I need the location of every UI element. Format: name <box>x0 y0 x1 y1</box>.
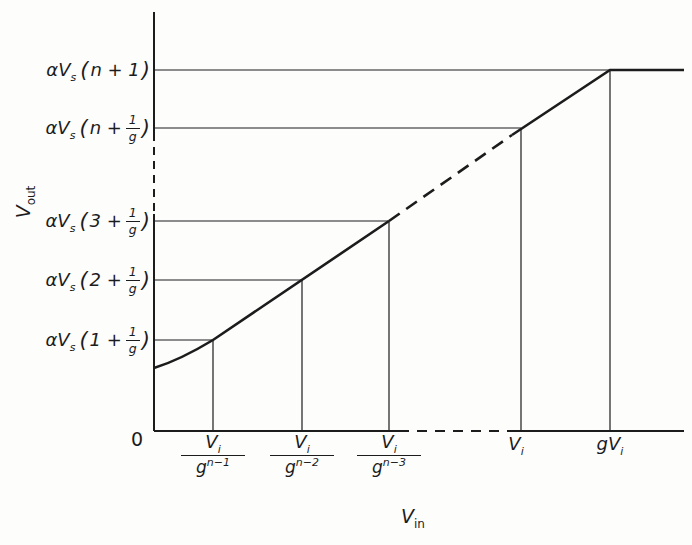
var-v-sub: i <box>394 443 397 456</box>
y-axis-title: Vout <box>14 178 38 226</box>
var-v: V <box>205 431 217 452</box>
var-v: V <box>57 210 69 231</box>
var-v: V <box>57 329 69 350</box>
alpha-symbol: α <box>45 329 57 350</box>
y-axis-title-var: V <box>12 205 34 218</box>
x-tick-label-vi-over-gn3: Vi gn−3 <box>357 433 421 476</box>
term-text: 1 + <box>90 331 122 349</box>
close-paren: ) <box>142 330 150 351</box>
curve-solid-lower <box>154 221 389 368</box>
fraction-denominator: g <box>126 281 140 295</box>
x-tick-label-vi-over-gn1: Vi gn−1 <box>181 433 245 476</box>
var-v: V <box>58 59 70 80</box>
var-v: V <box>608 433 620 454</box>
transfer-characteristic-figure: Vout αVs(n + 1) αVs(n +1g) αVs(3 +1g) αV… <box>0 0 692 545</box>
var-g: g <box>196 457 207 477</box>
fraction-numerator: Vi <box>357 433 421 456</box>
open-paren: ( <box>79 270 87 291</box>
var-v-sub: s <box>70 129 76 142</box>
var-g: g <box>372 457 383 477</box>
var-v: V <box>508 433 520 454</box>
open-paren: ( <box>79 118 87 139</box>
close-paren: ) <box>142 118 150 139</box>
fraction-denominator: g <box>126 129 140 143</box>
var-v-sub: s <box>70 222 76 235</box>
fraction-numerator: 1 <box>126 265 140 280</box>
alpha-symbol: α <box>45 117 57 138</box>
y-axis-title-sub: out <box>24 186 38 206</box>
var-g: g <box>597 433 608 454</box>
fraction-1-over-g: 1g <box>126 206 140 235</box>
fraction-denominator: g <box>126 341 140 355</box>
y-tick-coefficient: αVs <box>45 331 75 349</box>
var-g-exponent: n−3 <box>383 456 406 469</box>
fraction-numerator: 1 <box>126 325 140 340</box>
term-text: 3 + <box>90 212 122 230</box>
fraction-denominator: gn−3 <box>357 456 421 476</box>
var-v-sub: i <box>307 443 310 456</box>
x-tick-label-vi: Vi <box>496 435 536 453</box>
fraction-1-over-g: 1g <box>126 113 140 142</box>
close-paren: ) <box>142 211 150 232</box>
fraction-numerator: 1 <box>126 113 140 128</box>
var-v-sub: i <box>620 445 623 458</box>
open-paren: ( <box>80 60 88 81</box>
var-g-exponent: n−1 <box>207 456 230 469</box>
var-v-sub: s <box>70 281 76 294</box>
curve-dashed-break <box>389 135 512 221</box>
close-paren: ) <box>142 270 150 291</box>
fraction-denominator: gn−1 <box>181 456 245 476</box>
term-text: 2 + <box>90 271 122 289</box>
var-g: g <box>285 457 296 477</box>
fraction-denominator: g <box>126 222 140 236</box>
fraction-1-over-g: 1g <box>126 265 140 294</box>
open-paren: ( <box>79 211 87 232</box>
y-tick-label-2-plus-1g: αVs(2 +1g) <box>45 260 150 300</box>
curve-solid-upper-and-plateau <box>512 70 684 135</box>
y-tick-label-n-plus-1: αVs(n + 1) <box>46 50 150 90</box>
x-tick-label-vi-over-gn2: Vi gn−2 <box>270 433 334 476</box>
y-tick-coefficient: αVs <box>46 61 76 79</box>
var-v-sub: i <box>521 445 524 458</box>
term-text: n + <box>90 119 122 137</box>
x-tick-label-gvi: gVi <box>586 435 634 453</box>
fraction-numerator: 1 <box>126 206 140 221</box>
alpha-symbol: α <box>45 210 57 231</box>
y-tick-label-1-plus-1g: αVs(1 +1g) <box>45 320 150 360</box>
close-paren: ) <box>142 60 150 81</box>
var-v: V <box>381 431 393 452</box>
y-tick-coefficient: αVs <box>45 271 75 289</box>
fraction-denominator: gn−2 <box>270 456 334 476</box>
var-v: V <box>294 431 306 452</box>
x-axis-title-sub: in <box>414 517 425 531</box>
var-v: V <box>57 117 69 138</box>
alpha-symbol: α <box>45 269 57 290</box>
var-g-exponent: n−2 <box>296 456 319 469</box>
alpha-symbol: α <box>46 59 58 80</box>
fraction-numerator: Vi <box>270 433 334 456</box>
x-axis-title-var: V <box>401 505 414 527</box>
origin-label: 0 <box>131 430 143 449</box>
var-v: V <box>57 269 69 290</box>
y-tick-label-3-plus-1g: αVs(3 +1g) <box>45 201 150 241</box>
x-axis-title: Vin <box>383 507 443 526</box>
term-text: n + 1 <box>90 61 139 79</box>
fraction-1-over-g: 1g <box>126 325 140 354</box>
fraction-numerator: Vi <box>181 433 245 456</box>
var-v-sub: s <box>70 71 76 84</box>
y-tick-coefficient: αVs <box>45 119 75 137</box>
y-tick-coefficient: αVs <box>45 212 75 230</box>
y-tick-label-n-plus-1g: αVs(n +1g) <box>45 108 150 148</box>
open-paren: ( <box>79 330 87 351</box>
var-v-sub: s <box>70 341 76 354</box>
var-v-sub: i <box>218 443 221 456</box>
